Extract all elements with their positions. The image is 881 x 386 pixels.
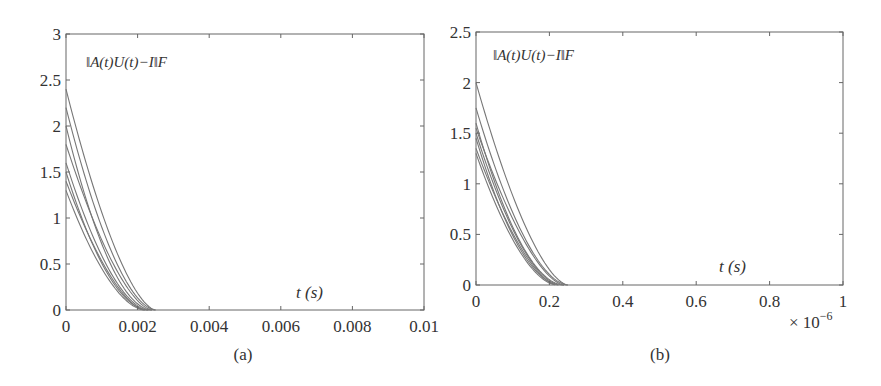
y-tick-label: 2 (463, 74, 472, 93)
plot-frame-b (476, 32, 843, 285)
y-tick-label: 0 (53, 301, 62, 320)
x-tick-label: 0.004 (190, 317, 229, 336)
x-tick-label: 0.002 (118, 317, 156, 336)
figure: 00.511.522.53 00.0020.0040.0060.0080.01 … (0, 0, 881, 386)
x-axis-label-a: t (s) (296, 283, 323, 302)
x-tick-label: 0 (472, 292, 481, 311)
x-multiplier-exponent: −6 (820, 309, 833, 323)
x-axis-label-b: t (s) (719, 257, 746, 276)
annotation-b: ‖A(t)U(t)−I‖F (493, 47, 575, 64)
annotation-a: ‖A(t)U(t)−I‖F (86, 54, 168, 71)
y-tick-label: 2 (53, 117, 62, 136)
y-tick-label: 0 (463, 276, 472, 295)
x-tick-label: 0.6 (686, 292, 707, 311)
x-multiplier-base: × 10 (789, 313, 820, 332)
x-tick-label: 0.01 (409, 317, 439, 336)
x-tick-label: 0.8 (759, 292, 780, 311)
y-tick-label: 3 (53, 25, 62, 44)
y-tick-label: 1.5 (450, 124, 471, 143)
x-tick-label: 1 (839, 292, 848, 311)
x-multiplier-b: × 10−6 (789, 309, 833, 332)
caption-b: (b) (650, 345, 670, 364)
x-tick-label: 0 (62, 317, 71, 336)
y-tick-label: 1 (463, 175, 472, 194)
y-tick-label: 0.5 (450, 225, 471, 244)
chart-panel-b: 00.511.522.5 00.20.40.60.81 ‖A(t)U(t)−I‖… (450, 23, 848, 364)
y-tick-label: 0.5 (40, 255, 61, 274)
x-tick-label: 0.4 (612, 292, 634, 311)
caption-a: (a) (234, 345, 253, 364)
x-tick-label: 0.2 (539, 292, 560, 311)
y-tick-label: 1 (53, 209, 62, 228)
y-tick-label: 1.5 (40, 163, 61, 182)
chart-panel-a: 00.511.522.53 00.0020.0040.0060.0080.01 … (40, 25, 439, 364)
y-tick-label: 2.5 (450, 23, 471, 42)
x-tick-label: 0.006 (262, 317, 300, 336)
x-tick-label: 0.008 (333, 317, 371, 336)
y-tick-label: 2.5 (40, 71, 61, 90)
